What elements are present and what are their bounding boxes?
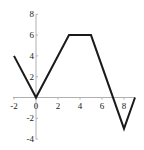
piecewise-function-chart: -202468-4-22468 [0,0,144,150]
y-tick-label: 4 [30,51,35,61]
x-tick-label: 0 [34,101,39,111]
x-tick-label: -2 [10,101,18,111]
x-tick-label: 4 [78,101,83,111]
y-tick-label: 8 [30,9,35,19]
x-tick-label: 2 [56,101,61,111]
y-tick-label: -2 [27,113,35,123]
y-tick-label: -4 [27,134,35,144]
x-tick-label: 8 [122,101,127,111]
x-tick-label: 6 [100,101,105,111]
y-tick-label: 6 [30,30,35,40]
tick-labels: -202468-4-22468 [10,9,127,144]
y-tick-label: 2 [30,72,35,82]
